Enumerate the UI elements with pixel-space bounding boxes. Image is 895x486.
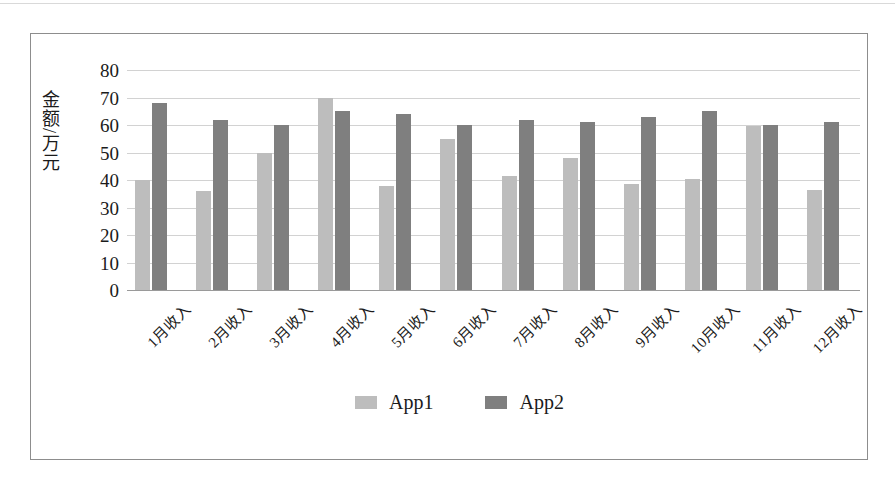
bar-App1-7月收入 [502, 176, 517, 290]
bar-group [677, 70, 738, 290]
bar-group [616, 70, 677, 290]
bar-App2-2月收入 [213, 120, 228, 291]
bar-series-layer [127, 70, 860, 290]
bar-App2-11月收入 [763, 125, 778, 290]
y-tick-label-60: 60 [75, 116, 119, 135]
bar-App1-10月收入 [685, 179, 700, 290]
legend-item-App1[interactable]: App1 [355, 392, 433, 412]
bar-App2-9月收入 [641, 117, 656, 290]
bar-App2-3月收入 [274, 125, 289, 290]
bar-App1-2月收入 [196, 191, 211, 290]
y-axis-title: 金额/万元 [36, 46, 62, 216]
y-tick-label-20: 20 [75, 226, 119, 245]
bar-group [249, 70, 310, 290]
x-tick-label-1: 1月收入 [141, 298, 194, 351]
y-tick-label-0: 0 [75, 281, 119, 300]
bar-App2-12月收入 [824, 122, 839, 290]
x-tick-label-4: 4月收入 [324, 298, 377, 351]
bar-group [494, 70, 555, 290]
x-tick-label-6: 6月收入 [446, 298, 499, 351]
x-tick-label-9: 9月收入 [630, 298, 683, 351]
y-tick-label-40: 40 [75, 171, 119, 190]
legend-item-App2[interactable]: App2 [485, 392, 563, 412]
y-axis-tick-labels: 01020304050607080 [71, 70, 119, 290]
plot-area [127, 70, 860, 290]
bar-App1-3月收入 [257, 153, 272, 291]
x-tick-label-5: 5月收入 [385, 298, 438, 351]
x-tick-label-2: 2月收入 [202, 298, 255, 351]
x-tick-label-7: 7月收入 [507, 298, 560, 351]
x-axis-tick-labels: 1月收入2月收入3月收入4月收入5月收入6月收入7月收入8月收入9月收入10月收… [127, 290, 860, 380]
bar-group [371, 70, 432, 290]
y-tick-label-10: 10 [75, 253, 119, 272]
legend-label-App2: App2 [519, 392, 563, 412]
bar-App2-8月收入 [580, 122, 595, 290]
bar-App2-5月收入 [396, 114, 411, 290]
x-tick-label-3: 3月收入 [263, 298, 316, 351]
x-tick-label-10: 10月收入 [685, 298, 744, 357]
y-tick-label-70: 70 [75, 88, 119, 107]
scan-artifact-line [0, 3, 895, 4]
bar-group [127, 70, 188, 290]
bar-App2-6月收入 [457, 125, 472, 290]
bar-App2-7月收入 [519, 120, 534, 291]
bar-group [555, 70, 616, 290]
chart-legend: App1App2 [355, 392, 564, 412]
y-tick-label-50: 50 [75, 143, 119, 162]
legend-label-App1: App1 [389, 392, 433, 412]
bar-group [799, 70, 860, 290]
x-tick-label-8: 8月收入 [569, 298, 622, 351]
bar-group [432, 70, 493, 290]
bar-App1-1月收入 [135, 180, 150, 290]
legend-swatch-App1 [355, 396, 377, 409]
bar-group [738, 70, 799, 290]
bar-App1-4月收入 [318, 98, 333, 291]
bar-group [310, 70, 371, 290]
bar-App1-8月收入 [563, 158, 578, 290]
bar-App1-5月收入 [379, 186, 394, 291]
x-tick-label-12: 12月收入 [807, 298, 866, 357]
bar-App2-4月收入 [335, 111, 350, 290]
bar-App2-10月收入 [702, 111, 717, 290]
bar-App1-6月收入 [440, 139, 455, 290]
bar-App1-9月收入 [624, 184, 639, 290]
y-tick-label-80: 80 [75, 61, 119, 80]
bar-App1-12月收入 [807, 190, 822, 290]
y-tick-label-30: 30 [75, 198, 119, 217]
legend-swatch-App2 [485, 396, 507, 409]
x-tick-label-11: 11月收入 [747, 298, 806, 357]
bar-App2-1月收入 [152, 103, 167, 290]
bar-App1-11月收入 [746, 126, 761, 290]
bar-group [188, 70, 249, 290]
